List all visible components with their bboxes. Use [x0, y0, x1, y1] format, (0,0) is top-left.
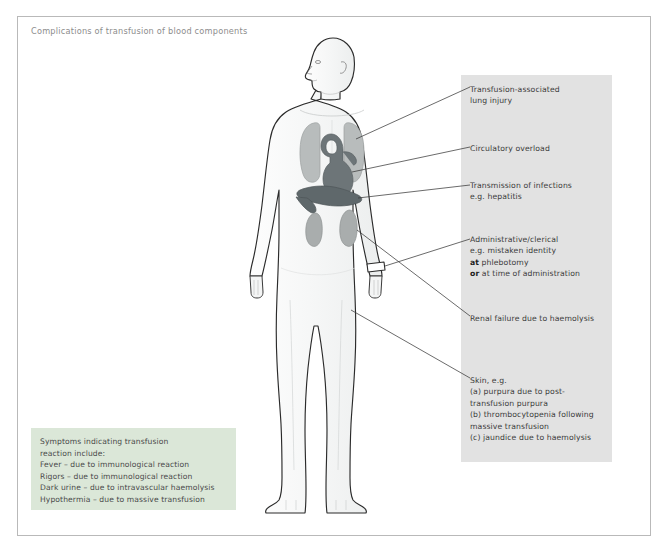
- annotation-renal-failure: Renal failure due to haemolysis: [470, 313, 655, 324]
- legend-item: Hypothermia – due to massive transfusion: [40, 494, 240, 506]
- annotation-line-rest: phlebotomy: [479, 258, 529, 267]
- annotation-line-rest: at time of administration: [479, 269, 580, 278]
- diagram-page: Complications of transfusion of blood co…: [0, 0, 668, 560]
- symptoms-legend-text: Symptoms indicating transfusion reaction…: [40, 436, 240, 506]
- annotation-line: (c) jaundice due to haemolysis: [470, 432, 655, 443]
- annotation-line: lung injury: [470, 95, 655, 106]
- annotation-circulatory-overload: Circulatory overload: [470, 143, 655, 154]
- legend-item: Dark urine – due to intravascular haemol…: [40, 482, 240, 494]
- annotation-administrative-clerical-error: Administrative/clerical e.g. mistaken id…: [470, 234, 655, 280]
- annotation-line: Transmission of infections: [470, 180, 655, 191]
- legend-item: Rigors – due to immunological reaction: [40, 471, 240, 483]
- annotation-line: e.g. hepatitis: [470, 191, 655, 202]
- annotation-line: e.g. mistaken identity: [470, 245, 655, 256]
- annotation-line: Skin, e.g.: [470, 375, 655, 386]
- annotation-line: (b) thrombocytopenia following: [470, 409, 655, 420]
- legend-heading-line: reaction include:: [40, 448, 240, 460]
- page-title: Complications of transfusion of blood co…: [31, 26, 247, 36]
- annotation-line: massive transfusion: [470, 421, 655, 432]
- annotation-line: Transfusion-associated: [470, 84, 655, 95]
- annotation-line: Circulatory overload: [470, 143, 655, 154]
- legend-heading-line: Symptoms indicating transfusion: [40, 436, 240, 448]
- bold-word-at: at: [470, 258, 479, 267]
- annotation-skin-complications: Skin, e.g. (a) purpura due to post- tran…: [470, 375, 655, 443]
- annotation-line-administration: or at time of administration: [470, 268, 655, 279]
- annotation-line: Administrative/clerical: [470, 234, 655, 245]
- bold-word-or: or: [470, 269, 479, 278]
- annotation-line-phlebotomy: at phlebotomy: [470, 257, 655, 268]
- annotation-line: (a) purpura due to post-: [470, 386, 655, 397]
- annotation-transmission-of-infections: Transmission of infections e.g. hepatiti…: [470, 180, 655, 203]
- legend-item: Fever – due to immunological reaction: [40, 459, 240, 471]
- annotation-line: transfusion purpura: [470, 398, 655, 409]
- annotation-transfusion-associated-lung-injury: Transfusion-associated lung injury: [470, 84, 655, 107]
- annotation-line: Renal failure due to haemolysis: [470, 313, 655, 324]
